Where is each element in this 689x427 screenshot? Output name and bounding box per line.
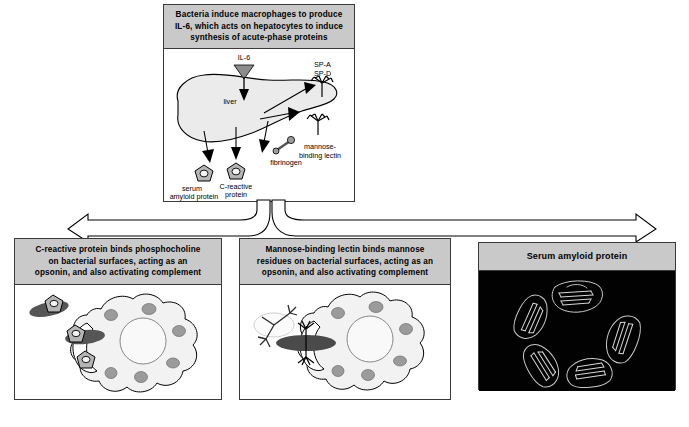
sap-caption-text: Serum amyloid protein bbox=[527, 250, 628, 263]
crp-illustration bbox=[15, 285, 221, 399]
branching-arrow-connector bbox=[0, 196, 689, 244]
caption-line-1: Bacteria induce macrophages to produce bbox=[176, 10, 343, 19]
arrow-fibrinogen-icon bbox=[259, 139, 270, 153]
panel-crp: C-reactive protein binds phosphocholine … bbox=[14, 238, 222, 400]
serum-amyloid-protein-icon bbox=[195, 165, 213, 181]
opsonized-bacterium-free bbox=[28, 295, 70, 320]
top-panel: Bacteria induce macrophages to produce I… bbox=[163, 4, 355, 202]
liver-label: liver bbox=[223, 97, 237, 106]
top-panel-caption: Bacteria induce macrophages to produce I… bbox=[164, 5, 354, 49]
caption-line-3: synthesis of acute-phase proteins bbox=[190, 33, 327, 42]
c-reactive-protein-icon bbox=[227, 163, 245, 179]
mbl-label-line1: mannose- bbox=[304, 142, 337, 151]
arrow-to-mbl-panel bbox=[272, 200, 656, 242]
fibrinogen-label: fibrinogen bbox=[270, 158, 302, 167]
sp-a-label: SP-A bbox=[314, 60, 331, 69]
panel-crp-caption: C-reactive protein binds phosphocholine … bbox=[15, 239, 221, 285]
arrow-to-crp-panel bbox=[68, 200, 270, 242]
collectin-mbl-icon bbox=[307, 114, 329, 135]
macrophage-nucleus bbox=[347, 316, 393, 362]
crp-caption-line-2: on bacterial surfaces, acting as an bbox=[48, 257, 187, 266]
fibrinogen-icon bbox=[273, 136, 295, 154]
mbl-caption-line-1: Mannose-binding lectin binds mannose bbox=[265, 245, 424, 254]
mbl-caption-line-2: residues on bacterial surfaces, acting a… bbox=[257, 257, 433, 266]
caption-line-2: IL-6, which acts on hepatocytes to induc… bbox=[175, 22, 343, 31]
panel-sap-caption: Serum amyloid protein bbox=[479, 243, 675, 271]
arrow-crp-icon bbox=[231, 147, 241, 160]
mbl-illustration bbox=[240, 285, 450, 399]
macrophage-nucleus bbox=[120, 318, 166, 364]
panel-sap: Serum amyloid protein bbox=[478, 242, 676, 390]
arrow-sap-icon bbox=[202, 149, 214, 163]
sap-structure-image bbox=[479, 271, 675, 391]
crp-caption-line-1: C-reactive protein binds phosphocholine bbox=[35, 245, 200, 254]
crp-caption-line-3: opsonin, and also activating complement bbox=[35, 268, 201, 277]
panel-mbl-caption: Mannose-binding lectin binds mannose res… bbox=[240, 239, 450, 285]
mbl-caption-line-3: opsonin, and also activating complement bbox=[262, 268, 428, 277]
il6-label: IL-6 bbox=[238, 53, 250, 62]
liver-illustration: liver IL-6 serum amyloid protein bbox=[164, 49, 354, 201]
panel-mbl: Mannose-binding lectin binds mannose res… bbox=[239, 238, 451, 400]
mbl-label-line2: binding lectin bbox=[299, 151, 341, 160]
